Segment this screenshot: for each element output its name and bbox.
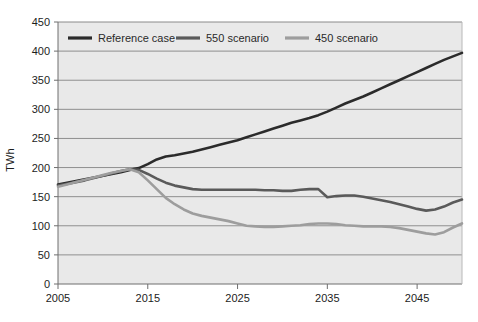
y-tick-label: 300 (32, 103, 50, 115)
chart-container: 050100150200250300350400450 200520152025… (0, 0, 478, 322)
x-tick-label: 2005 (46, 292, 70, 304)
line-chart: 050100150200250300350400450 200520152025… (0, 0, 478, 322)
x-tick-label: 2035 (315, 292, 339, 304)
x-tick-label: 2045 (405, 292, 429, 304)
x-tick-label: 2025 (225, 292, 249, 304)
y-tick-label: 100 (32, 220, 50, 232)
y-tick-label: 150 (32, 191, 50, 203)
y-tick-label: 250 (32, 132, 50, 144)
y-tick-label: 200 (32, 162, 50, 174)
chart-legend: Reference case550 scenario450 scenario (68, 32, 378, 44)
x-tick-label: 2015 (136, 292, 160, 304)
y-axis-title: TWh (4, 148, 16, 171)
y-tick-label: 450 (32, 16, 50, 28)
plot-area-background (58, 22, 462, 284)
y-tick-label: 400 (32, 45, 50, 57)
y-tick-label: 350 (32, 74, 50, 86)
y-tick-label: 0 (44, 278, 50, 290)
y-tick-label: 50 (38, 249, 50, 261)
legend-label-0: Reference case (98, 32, 175, 44)
legend-label-2: 450 scenario (315, 32, 378, 44)
legend-label-1: 550 scenario (206, 32, 269, 44)
